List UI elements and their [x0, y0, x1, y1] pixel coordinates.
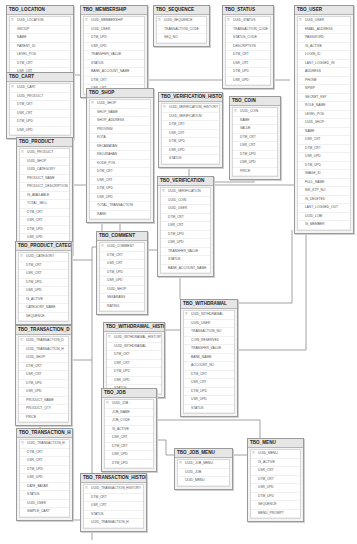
column-row[interactable]: PRICE [233, 168, 277, 177]
column-row[interactable]: SECRET_KEY [298, 94, 350, 103]
column-row[interactable]: DTM_CRT [233, 134, 277, 143]
column-row[interactable]: TRANSFER_VALUE [161, 248, 210, 257]
column-row[interactable]: STATUS [20, 491, 69, 500]
primary-key-column[interactable]: UUID_VERIFICATION [161, 188, 210, 197]
column-row[interactable]: USR_CRT [233, 142, 277, 151]
table-title[interactable]: TBO_LOCATION [7, 6, 73, 15]
table-sequence[interactable]: TBO_SEQUENCEUUID_SEQUENCETRANSACTION_COD… [153, 5, 210, 47]
table-title[interactable]: TBO_MEMBERSHIP [81, 6, 147, 15]
table-verif-hist[interactable]: TBO_VERIFICATION_HISTORYUUID_VERIFICATIO… [158, 92, 223, 168]
column-row[interactable]: IS_DELETED [298, 196, 350, 205]
column-row[interactable]: USR_CRT [161, 222, 210, 231]
column-row[interactable]: NAME [233, 117, 277, 126]
column-row[interactable]: SHOP_ADDRESS [90, 117, 150, 126]
column-row[interactable]: UUID_JOB [178, 469, 229, 478]
column-row[interactable]: USR_UPD [19, 287, 68, 296]
table-job-menu[interactable]: TBO_JOB_MENUUUID_JOB_MENUUUID_JOBUUID_ME… [174, 448, 233, 490]
column-row[interactable]: DTM_CRT [84, 494, 143, 503]
table-membership[interactable]: TBO_MEMBERSHIPUUID_MEMBERSHIPUUID_USERDT… [80, 5, 148, 98]
table-prod-cat[interactable]: TBO_PRODUCT_CATEGORYUUID_CATEGORYDTM_CRT… [15, 241, 72, 325]
column-row[interactable]: IS_MEMBER [298, 221, 350, 230]
column-row[interactable]: SEQUENCE [19, 313, 68, 322]
primary-key-column[interactable]: UUID_WITHDRAWAL [184, 311, 234, 320]
primary-key-column[interactable]: UUID_LOCATION [10, 17, 70, 26]
primary-key-column[interactable]: UUID_COMMENT [100, 243, 144, 252]
column-row[interactable]: USR_CRT [20, 457, 69, 466]
column-row[interactable]: UUID_SHOP [100, 286, 144, 295]
primary-key-column[interactable]: UUID_JOB_MENU [178, 460, 229, 469]
column-row[interactable]: DESCRIPTION [226, 43, 270, 52]
column-row[interactable]: DTM_CRT [161, 214, 210, 223]
table-verification[interactable]: TBO_VERIFICATIONUUID_VERIFICATIONUUID_CO… [157, 176, 214, 277]
column-row[interactable]: PASSWORD [298, 34, 350, 43]
column-row[interactable]: KECAMATAN [90, 143, 150, 152]
column-row[interactable]: UUID_PRODUCT [10, 93, 70, 102]
column-row[interactable]: USR_CRT [84, 502, 143, 511]
primary-key-column[interactable]: UUID_SEQUENCE [157, 17, 206, 26]
column-row[interactable]: NAME [298, 128, 350, 137]
primary-key-column[interactable]: UUID_CATEGORY [19, 253, 68, 262]
column-row[interactable]: USR_UPD [84, 43, 144, 52]
column-row[interactable]: DTM_CRT [105, 443, 153, 452]
column-row[interactable]: PRODUCT_NAME [20, 175, 69, 184]
column-row[interactable]: DTM_UPD [162, 138, 219, 147]
column-row[interactable]: DTM_UPD [20, 226, 69, 235]
column-row[interactable]: PRODUCT_QTY [19, 405, 68, 414]
column-row[interactable]: PRODUCT_NAME [19, 397, 68, 406]
table-shop[interactable]: TBO_SHOPUUID_SHOPSHOP_NAMESHOP_ADDRESSPR… [86, 88, 154, 223]
column-row[interactable]: IS_ACTIVE [19, 296, 68, 305]
primary-key-column[interactable]: UUID_VERIFICATION_HISTORY [162, 104, 219, 113]
column-row[interactable]: USR_CRT [162, 130, 219, 139]
column-row[interactable]: RANK [90, 211, 150, 220]
table-title[interactable]: TBO_COIN [230, 97, 280, 106]
primary-key-column[interactable]: UUID_TRANSACTION_H [20, 440, 69, 449]
column-row[interactable]: LEVEL_POS [10, 51, 70, 60]
column-row[interactable]: SIMPLE_CART [20, 508, 69, 517]
column-row[interactable]: TRANSFER_VALUE [184, 345, 234, 354]
column-row[interactable]: IS_ACTIVE [105, 426, 153, 435]
primary-key-column[interactable]: UUID_JOB [105, 400, 153, 409]
column-row[interactable]: DTM_UPD [105, 460, 153, 469]
table-job[interactable]: TBO_JOBUUID_JOBJOB_NAMEJOB_CODEIS_ACTIVE… [101, 388, 157, 472]
table-product[interactable]: TBO_PRODUCTUUID_PRODUCTUUID_SHOPUUID_CAT… [16, 137, 73, 255]
column-row[interactable]: STATUS [162, 155, 219, 164]
column-row[interactable]: PRODUCT_DESCRIPTION [20, 183, 69, 192]
column-row[interactable]: DTM_CRT [10, 60, 70, 69]
column-row[interactable]: USR_UPD [100, 277, 144, 286]
column-row[interactable]: SEKARANG [100, 294, 144, 303]
column-row[interactable]: JOB_NAME [105, 409, 153, 418]
column-row[interactable]: BANK_ACCOUNT_NAME [161, 265, 210, 274]
column-row[interactable]: DTM_CRT [100, 252, 144, 261]
column-row[interactable]: TRANSACTION_NO [184, 328, 234, 337]
primary-key-column[interactable]: UUID_PRODUCT [20, 149, 69, 158]
column-row[interactable]: USR_CRT [100, 260, 144, 269]
column-row[interactable]: UUID_VERIFICATION [162, 113, 219, 122]
column-row[interactable]: USR_UPD [233, 159, 277, 168]
column-row[interactable]: ADDRESS [298, 68, 350, 77]
column-row[interactable]: DTM_CRT [298, 145, 350, 154]
primary-key-column[interactable]: UUID_CART [10, 84, 70, 93]
column-row[interactable]: USR_CRT [105, 434, 153, 443]
table-title[interactable]: TBO_CART [7, 73, 73, 82]
primary-key-column[interactable]: UUID_TRANSACTION_D [19, 337, 68, 346]
column-row[interactable]: DTM_UPD [251, 493, 300, 502]
column-row[interactable]: PARENT_ID [10, 43, 70, 52]
column-row[interactable]: DTM_UPD [84, 34, 144, 43]
column-row[interactable]: IS_ACTIVE [298, 43, 350, 52]
primary-key-column[interactable]: UUID_STATUS [226, 17, 270, 26]
column-row[interactable]: UUID_COIN [161, 197, 210, 206]
column-row[interactable]: KELURAHAN [90, 151, 150, 160]
column-row[interactable]: PRICE [19, 414, 68, 423]
column-row[interactable]: UUID_LOBI [298, 213, 350, 222]
column-row[interactable]: USR_CRT [19, 371, 68, 380]
table-title[interactable]: TBO_VERIFICATION_HISTORY [159, 93, 222, 102]
column-row[interactable]: CATEGORY_NAME [19, 304, 68, 313]
column-row[interactable]: DTM_CRT [226, 51, 270, 60]
column-row[interactable]: USR_CRT [226, 60, 270, 69]
column-row[interactable]: USR_UPD [161, 239, 210, 248]
column-row[interactable]: DTM_CRT [90, 168, 150, 177]
column-row[interactable]: SHOP_NAME [90, 109, 150, 118]
column-row[interactable]: TRANSFER_VALUE [84, 51, 144, 60]
column-row[interactable]: USR_CRT [298, 136, 350, 145]
column-row[interactable]: SEQ_NO [157, 34, 206, 43]
